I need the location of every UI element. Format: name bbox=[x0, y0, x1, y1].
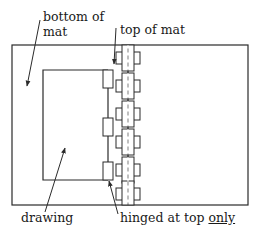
arrow-bottom-of-mat bbox=[27, 20, 40, 86]
arrows bbox=[27, 20, 118, 214]
label-hinged-prefix: hinged at top bbox=[120, 210, 208, 225]
label-hinged-at-top-only: hinged at top only bbox=[120, 211, 235, 225]
drawing-tab bbox=[103, 162, 113, 180]
label-hinged-emphasis: only bbox=[208, 210, 235, 225]
drawing-rectangle bbox=[43, 70, 108, 180]
drawing-tabs bbox=[103, 70, 113, 180]
label-drawing: drawing bbox=[21, 211, 73, 225]
label-top-of-mat: top of mat bbox=[120, 23, 185, 37]
hinge-column bbox=[116, 45, 140, 205]
label-bottom-of-mat-line2: mat bbox=[43, 25, 67, 39]
drawing-tab bbox=[103, 70, 113, 88]
label-bottom-of-mat-line1: bottom of bbox=[43, 10, 104, 24]
drawing-tab bbox=[103, 118, 113, 136]
